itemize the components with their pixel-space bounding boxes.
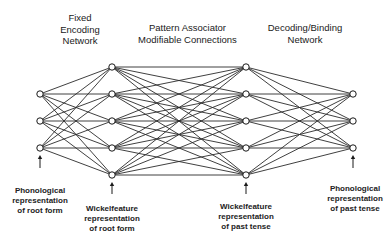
- connection-line: [246, 67, 353, 94]
- node-phonological-root: [37, 118, 43, 124]
- caption-phonological-past-tense: Phonological representation of past tens…: [322, 184, 388, 214]
- node-wickelfeature-past: [243, 145, 249, 151]
- connection-line: [246, 148, 353, 175]
- up-arrow-icon: [38, 155, 42, 168]
- caption-wickelfeature-root-form: Wickelfeature representation of root for…: [77, 204, 147, 234]
- connection-line: [40, 67, 112, 94]
- node-phonological-past: [350, 118, 356, 124]
- node-wickelfeature-past: [243, 118, 249, 124]
- node-wickelfeature-past: [243, 91, 249, 97]
- node-phonological-past: [350, 145, 356, 151]
- up-arrow-icon: [110, 182, 114, 194]
- caption-wickelfeature-past-tense: Wickelfeature representation of past ten…: [211, 202, 281, 232]
- node-wickelfeature-past: [243, 172, 249, 178]
- connection-line: [40, 67, 112, 148]
- node-phonological-past: [350, 91, 356, 97]
- connection-line: [246, 94, 353, 175]
- up-arrow-icon: [244, 182, 248, 194]
- node-wickelfeature-root: [109, 91, 115, 97]
- node-wickelfeature-root: [109, 118, 115, 124]
- up-arrow-icon: [351, 155, 355, 168]
- node-wickelfeature-root: [109, 145, 115, 151]
- node-phonological-root: [37, 91, 43, 97]
- node-wickelfeature-root: [109, 64, 115, 70]
- node-wickelfeature-past: [243, 64, 249, 70]
- connections: [40, 67, 353, 175]
- node-wickelfeature-root: [109, 172, 115, 178]
- caption-phonological-root-form: Phonological representation of root form: [2, 186, 78, 216]
- connection-line: [40, 148, 112, 175]
- node-phonological-root: [37, 145, 43, 151]
